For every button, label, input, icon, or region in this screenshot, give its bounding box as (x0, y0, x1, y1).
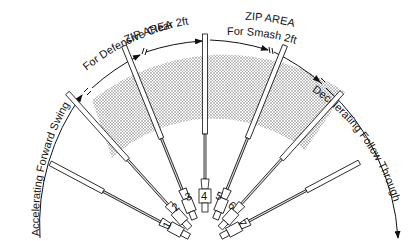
label-decelerating: Decelerating Follow Through (311, 83, 404, 203)
swing-arc-diagram: Accelerating Forward Swing ZIP AREA For … (0, 0, 408, 241)
racket-7 (219, 158, 362, 241)
swing-diagram: Accelerating Forward Swing ZIP AREA For … (0, 0, 408, 241)
position-4: 4 (201, 190, 207, 202)
zip-area-band (92, 55, 345, 158)
